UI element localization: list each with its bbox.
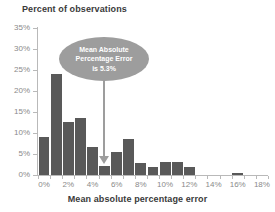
x-axis-tick-mark [74, 176, 75, 179]
x-axis-tick-mark [86, 176, 87, 179]
bar [148, 167, 159, 175]
bar [232, 173, 243, 175]
y-axis-tick-label: 20% [4, 86, 30, 95]
callout-line-2: Percentage Error [76, 55, 133, 62]
x-axis-tick-label: 14% [204, 180, 224, 189]
mean-absolute-percentage-error-callout: Mean Absolute Percentage Error is 5.3% [59, 37, 149, 81]
x-axis-tick-mark [195, 176, 196, 179]
x-axis-tick-mark [159, 176, 160, 179]
x-axis-tick-mark [50, 176, 51, 179]
x-axis-tick-mark [220, 176, 221, 179]
bar [87, 147, 98, 175]
x-axis-tick-mark [207, 176, 208, 179]
x-axis-tick-label: 0% [34, 180, 54, 189]
y-axis-tick-mark [33, 175, 37, 176]
x-axis-tick-label: 10% [155, 180, 175, 189]
x-axis-tick-mark [268, 176, 269, 179]
y-axis-tick-mark [33, 154, 37, 155]
bar [99, 166, 110, 175]
bar [135, 163, 146, 175]
callout-line-3: is 5.3% [92, 65, 116, 72]
bar [172, 162, 183, 175]
chart-y-axis-title: Percent of observations [22, 4, 127, 14]
bar [111, 152, 122, 175]
y-axis-tick-label: 35% [4, 23, 30, 32]
bar [63, 122, 74, 175]
x-axis-tick-mark [99, 176, 100, 179]
chart-x-axis-title: Mean absolute percentage error [0, 194, 275, 204]
y-axis-tick-label: 15% [4, 107, 30, 116]
x-axis-tick-mark [62, 176, 63, 179]
y-axis-tick-label: 25% [4, 65, 30, 74]
x-axis-tick-mark [256, 176, 257, 179]
y-axis-tick-mark [33, 133, 37, 134]
y-axis-tick-mark [33, 91, 37, 92]
y-axis-tick-mark [33, 49, 37, 50]
callout-arrow-line [103, 80, 105, 158]
x-axis-tick-mark [111, 176, 112, 179]
x-axis-tick-mark [183, 176, 184, 179]
x-axis-tick-mark [123, 176, 124, 179]
x-axis-tick-label: 12% [179, 180, 199, 189]
x-axis-tick-label: 8% [131, 180, 151, 189]
y-axis-tick-label: 30% [4, 44, 30, 53]
bar [51, 74, 62, 175]
x-axis-tick-label: 16% [228, 180, 248, 189]
bar [75, 118, 86, 175]
x-axis-tick-mark [147, 176, 148, 179]
x-axis-tick-label: 4% [82, 180, 102, 189]
y-axis-tick-label: 10% [4, 128, 30, 137]
callout-line-1: Mean Absolute [79, 46, 129, 53]
x-axis-tick-mark [38, 176, 39, 179]
x-axis-tick-label: 2% [58, 180, 78, 189]
callout-arrow-head-icon [99, 156, 109, 164]
x-axis-tick-mark [135, 176, 136, 179]
chart-container: Percent of observations 0%5%10%15%20%25%… [0, 0, 275, 212]
x-axis-tick-mark [244, 176, 245, 179]
y-axis-tick-mark [33, 70, 37, 71]
x-axis-tick-label: 18% [252, 180, 272, 189]
y-axis-tick-label: 5% [4, 149, 30, 158]
x-axis-tick-mark [171, 176, 172, 179]
bar [39, 137, 50, 175]
bar [184, 167, 195, 175]
x-axis-line [37, 175, 268, 176]
x-axis-tick-mark [232, 176, 233, 179]
x-axis-tick-label: 6% [107, 180, 127, 189]
callout-text: Mean Absolute Percentage Error is 5.3% [70, 45, 139, 73]
y-axis-tick-mark [33, 112, 37, 113]
bar [160, 162, 171, 175]
bar [123, 139, 134, 175]
y-axis-tick-mark [33, 28, 37, 29]
y-axis-tick-label: 0% [4, 170, 30, 179]
